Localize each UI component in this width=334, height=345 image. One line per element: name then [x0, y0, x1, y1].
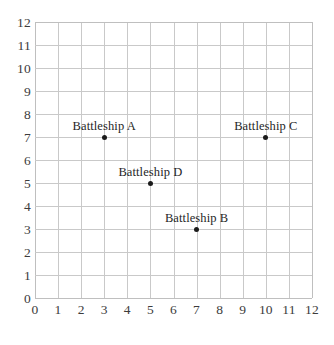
plot-area: Battleship ABattleship CBattleship DBatt… [35, 22, 312, 298]
data-point [263, 135, 268, 140]
gridline-horizontal [35, 137, 312, 138]
y-axis-tick-label: 12 [1, 16, 31, 30]
x-axis-tick-label: 5 [138, 303, 162, 317]
gridline-horizontal [35, 183, 312, 184]
y-axis-tick-labels: 0123456789101112 [0, 0, 31, 345]
gridline-horizontal [35, 114, 312, 115]
x-axis-tick-label: 0 [23, 303, 47, 317]
data-point-label: Battleship B [165, 212, 228, 225]
y-axis-tick-label: 6 [1, 154, 31, 168]
gridline-horizontal [35, 298, 312, 299]
gridline-horizontal [35, 275, 312, 276]
gridline-horizontal [35, 160, 312, 161]
y-axis-tick-label: 1 [1, 269, 31, 283]
data-point-label: Battleship C [234, 120, 297, 133]
x-axis-tick-label: 7 [185, 303, 209, 317]
y-axis-tick-label: 2 [1, 246, 31, 260]
gridline-horizontal [35, 252, 312, 253]
y-axis-tick-label: 9 [1, 85, 31, 99]
y-axis-tick-label: 7 [1, 131, 31, 145]
data-point [102, 135, 107, 140]
x-axis-tick-label: 2 [69, 303, 93, 317]
x-axis-tick-labels: 0123456789101112 [0, 303, 334, 323]
gridline-horizontal [35, 229, 312, 230]
x-axis-tick-label: 11 [277, 303, 301, 317]
x-axis-tick-label: 3 [92, 303, 116, 317]
scatter-chart: Battleship ABattleship CBattleship DBatt… [0, 0, 334, 345]
data-point [148, 181, 153, 186]
x-axis-tick-label: 4 [115, 303, 139, 317]
data-point [194, 227, 199, 232]
y-axis-tick-label: 4 [1, 200, 31, 214]
x-axis-tick-label: 12 [300, 303, 324, 317]
y-axis-tick-label: 5 [1, 177, 31, 191]
x-axis-tick-label: 9 [231, 303, 255, 317]
x-axis-tick-label: 1 [46, 303, 70, 317]
x-axis-tick-label: 10 [254, 303, 278, 317]
x-axis-tick-label: 6 [162, 303, 186, 317]
data-point-label: Battleship A [73, 120, 136, 133]
gridline-horizontal [35, 22, 312, 23]
data-point-label: Battleship D [118, 166, 182, 179]
y-axis-tick-label: 11 [1, 39, 31, 53]
y-axis-tick-label: 8 [1, 108, 31, 122]
gridline-horizontal [35, 206, 312, 207]
gridline-horizontal [35, 68, 312, 69]
gridline-vertical [312, 22, 313, 298]
x-axis-tick-label: 8 [208, 303, 232, 317]
y-axis-tick-label: 10 [1, 62, 31, 76]
gridline-horizontal [35, 91, 312, 92]
gridline-horizontal [35, 45, 312, 46]
y-axis-tick-label: 3 [1, 223, 31, 237]
